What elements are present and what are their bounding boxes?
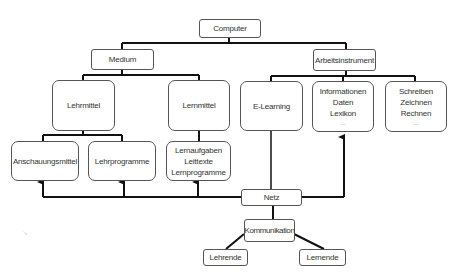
- node-label: Lehrende: [209, 252, 241, 263]
- node-label: Lehrmittel: [67, 100, 100, 111]
- node-line: Informationen: [320, 86, 366, 97]
- node-line: Lernaufgaben: [175, 145, 222, 156]
- node-label: Lernmittel: [182, 100, 215, 111]
- node-informationen[interactable]: Informationen Daten Lexikon ...: [312, 81, 374, 132]
- node-lernaufgaben[interactable]: Lernaufgaben Leittexte Lernprogramme: [166, 141, 231, 181]
- node-arbeitsinstrument[interactable]: Arbeitsinstrument: [313, 49, 376, 71]
- node-anschauungsmittel[interactable]: Anschauungsmittel: [11, 141, 79, 181]
- node-e-learning[interactable]: E-Learning: [240, 81, 303, 131]
- node-lehrmittel[interactable]: Lehrmittel: [52, 80, 115, 131]
- node-medium[interactable]: Medium: [91, 49, 154, 70]
- node-line: Lexikon: [330, 108, 356, 119]
- node-netz[interactable]: Netz: [241, 189, 302, 206]
- connector-lines: [0, 0, 456, 275]
- node-label: Kommunikation: [245, 225, 295, 236]
- node-lernende[interactable]: Lernende: [299, 249, 346, 266]
- node-schreiben[interactable]: Schreiben Zeichnen Rechnen ...: [385, 81, 447, 132]
- node-label: Computer: [213, 23, 247, 34]
- ellipsis: ...: [340, 119, 345, 127]
- watermark-icon: ↘: [22, 229, 28, 237]
- node-line: Rechnen: [401, 108, 432, 119]
- node-lernmittel[interactable]: Lernmittel: [168, 80, 230, 131]
- ellipsis: ...: [413, 119, 418, 127]
- node-line: Schreiben: [399, 86, 433, 97]
- node-lehrende[interactable]: Lehrende: [203, 249, 248, 266]
- node-kommunikation[interactable]: Kommunikation: [244, 219, 295, 242]
- node-label: Lernende: [306, 252, 338, 263]
- node-computer[interactable]: Computer: [199, 19, 261, 38]
- node-label: Netz: [264, 192, 280, 203]
- node-line: Leittexte: [184, 156, 212, 167]
- node-label: E-Learning: [253, 101, 290, 112]
- node-lehrprogramme[interactable]: Lehrprogramme: [88, 141, 156, 181]
- node-label: Lehrprogramme: [95, 156, 149, 167]
- node-label: Arbeitsinstrument: [315, 55, 374, 66]
- node-line: Lernprogramme: [171, 167, 225, 178]
- node-label: Anschauungsmittel: [13, 156, 77, 167]
- node-line: Daten: [333, 97, 353, 108]
- node-label: Medium: [109, 54, 136, 65]
- node-line: Zeichnen: [400, 97, 431, 108]
